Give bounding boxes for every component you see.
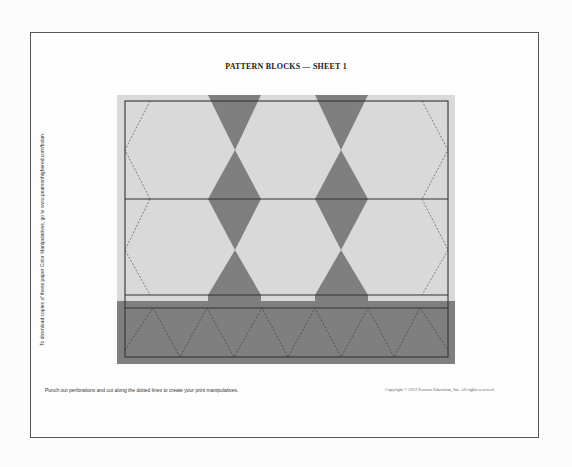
footer-instructions: Punch out perforations and cut along the… (45, 387, 238, 393)
triangle-band (117, 301, 455, 364)
pattern-blocks-sheet (0, 0, 572, 467)
copyright-notice: Copyright © 2012 Pearson Education, Inc.… (385, 387, 495, 392)
